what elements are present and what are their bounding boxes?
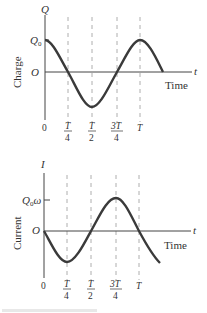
- dashed-gridlines: [67, 175, 139, 280]
- current-panel: I t Time Current O Q0ω 0 T 4 T 2 3T 4 T: [11, 158, 197, 301]
- current-x-axis-symbol: t: [193, 224, 197, 236]
- tick-three-quarter-den: 4: [113, 291, 118, 301]
- figure-canvas: Q t Time Charge O Q0 0 T 4 T 2 3T 4 T: [0, 0, 207, 313]
- charge-amplitude-label: Q0: [30, 34, 42, 48]
- tick-three-quarter-num: 3T: [109, 279, 121, 289]
- charge-y-label: Charge: [11, 56, 23, 88]
- current-y-label: Current: [11, 216, 23, 250]
- current-y-axis-symbol: I: [40, 158, 46, 170]
- charge-x-label: Time: [165, 79, 188, 91]
- caption-remnant: [2, 309, 97, 312]
- tick-half-den: 2: [89, 133, 94, 143]
- tick-quarter-den: 4: [64, 291, 69, 301]
- tick-half-num: T: [89, 121, 95, 131]
- charge-tick-labels: 0 T 4 T 2 3T 4 T: [42, 121, 143, 143]
- current-tick-labels: 0 T 4 T 2 3T 4 T: [41, 279, 142, 301]
- tick-full: T: [136, 281, 142, 291]
- charge-x-axis-symbol: t: [194, 65, 198, 77]
- tick-quarter-num: T: [64, 279, 70, 289]
- tick-three-quarter-den: 4: [114, 133, 119, 143]
- current-origin-label: O: [32, 224, 40, 236]
- tick-0: 0: [41, 281, 46, 291]
- tick-three-quarter-num: 3T: [110, 121, 122, 131]
- charge-origin-label: O: [31, 66, 39, 78]
- charge-curve: [45, 40, 163, 107]
- tick-half-den: 2: [88, 291, 93, 301]
- tick-full: T: [137, 123, 143, 133]
- tick-quarter-den: 4: [65, 133, 70, 143]
- tick-0: 0: [42, 123, 47, 133]
- dashed-gridlines: [68, 17, 140, 122]
- charge-y-axis-symbol: Q: [41, 3, 49, 15]
- charge-panel: Q t Time Charge O Q0 0 T 4 T 2 3T 4 T: [11, 3, 198, 143]
- current-x-label: Time: [164, 239, 187, 251]
- current-amplitude-label: Q0ω: [22, 194, 41, 208]
- tick-quarter-num: T: [65, 121, 71, 131]
- tick-half-num: T: [88, 279, 94, 289]
